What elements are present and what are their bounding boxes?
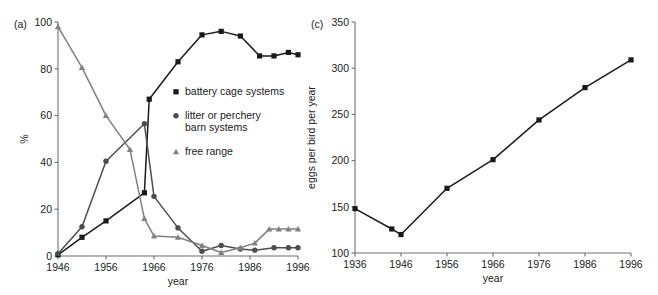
data-point	[103, 113, 109, 119]
x-tick-label: 1946	[46, 261, 70, 273]
x-tick-label: 1976	[527, 258, 551, 270]
data-point	[490, 157, 495, 162]
data-point	[238, 33, 243, 38]
data-point	[79, 224, 84, 229]
legend-label: free range	[185, 145, 233, 157]
y-tick-label: 60	[40, 109, 52, 121]
data-point	[199, 32, 204, 37]
data-point	[141, 215, 147, 221]
y-tick-label: 100	[331, 247, 349, 259]
x-axis-title: year	[168, 275, 189, 287]
legend-marker	[173, 149, 179, 155]
legend: battery cage systemslitter or percheryba…	[173, 85, 284, 157]
x-tick-label: 1996	[286, 261, 310, 273]
data-point	[142, 190, 147, 195]
data-point	[142, 121, 147, 126]
legend-marker	[173, 89, 178, 94]
data-point	[147, 97, 152, 102]
x-tick-label: 1936	[343, 258, 367, 270]
data-point	[286, 245, 291, 250]
y-tick-label: 300	[331, 62, 349, 74]
data-point	[257, 53, 262, 58]
series-line-battery-cage-systems	[58, 31, 298, 254]
data-point	[271, 53, 276, 58]
x-tick-label: 1976	[190, 261, 214, 273]
y-tick-label: 100	[34, 16, 52, 28]
y-tick-label: 250	[331, 108, 349, 120]
y-tick-label: 150	[331, 201, 349, 213]
data-point	[295, 245, 300, 250]
x-tick-label: 1966	[142, 261, 166, 273]
data-point	[628, 57, 633, 62]
y-axis-title: eggs per bird per year	[305, 86, 317, 189]
data-point	[151, 194, 156, 199]
data-point	[389, 226, 394, 231]
figure-container: 020406080100194619561966197619861996year…	[0, 0, 658, 295]
data-point	[536, 117, 541, 122]
data-point	[103, 159, 108, 164]
series-line-litter-or-perchery-barn-systems	[58, 124, 298, 254]
y-tick-label: 350	[331, 16, 349, 28]
data-point	[252, 247, 257, 252]
y-tick-label: 80	[40, 63, 52, 75]
x-tick-label: 1946	[389, 258, 413, 270]
legend-label: barn systems	[185, 121, 247, 133]
data-point	[295, 52, 300, 57]
data-point	[103, 218, 108, 223]
data-point	[582, 85, 587, 90]
y-axis-title: %	[18, 134, 30, 143]
y-tick-label: 200	[331, 154, 349, 166]
y-tick-label: 40	[40, 156, 52, 168]
x-tick-label: 1956	[435, 258, 459, 270]
data-point	[55, 251, 60, 256]
data-point	[219, 243, 224, 248]
data-point	[79, 235, 84, 240]
data-point	[175, 59, 180, 64]
data-point	[199, 249, 204, 254]
panel-a-label: (a)	[14, 18, 27, 30]
legend-label: battery cage systems	[185, 85, 284, 97]
x-axis-title: year	[483, 272, 504, 284]
figure-svg: 020406080100194619561966197619861996year…	[0, 0, 658, 295]
legend-label: litter or perchery	[185, 109, 262, 121]
data-point	[219, 29, 224, 34]
x-tick-label: 1966	[481, 258, 505, 270]
x-tick-label: 1986	[573, 258, 597, 270]
x-tick-label: 1956	[94, 261, 118, 273]
series-line-eggs-per-bird-per-year	[355, 60, 631, 235]
panel-c-label: (c)	[311, 18, 323, 30]
y-tick-label: 20	[40, 203, 52, 215]
x-tick-label: 1996	[619, 258, 643, 270]
data-point	[398, 232, 403, 237]
data-point	[286, 50, 291, 55]
panel-c: 1001502002503003501936194619561966197619…	[305, 16, 643, 284]
y-tick-label: 0	[46, 250, 52, 262]
data-point	[175, 225, 180, 230]
data-point	[271, 245, 276, 250]
legend-marker	[173, 113, 178, 118]
data-point	[55, 24, 61, 30]
x-tick-label: 1986	[238, 261, 262, 273]
panel-a: 020406080100194619561966197619861996year…	[18, 16, 310, 287]
data-point	[444, 186, 449, 191]
data-point	[352, 206, 357, 211]
